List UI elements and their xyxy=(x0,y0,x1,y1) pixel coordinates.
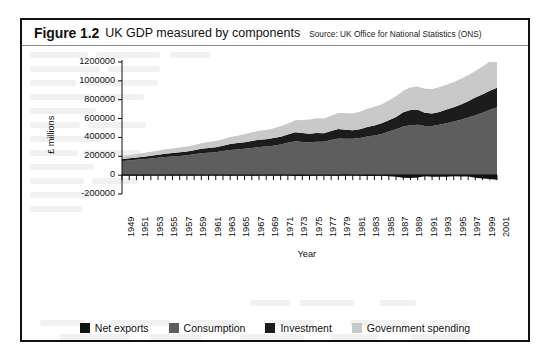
x-axis-tick-label: 1993 xyxy=(443,217,453,237)
x-axis-tick-label: 1953 xyxy=(155,217,165,237)
x-axis-tick-label: 1955 xyxy=(169,217,179,237)
y-axis-tick-label: -200000 xyxy=(45,188,115,198)
figure-number: Figure 1.2 xyxy=(34,25,99,41)
y-axis-tick-label: 800000 xyxy=(45,94,115,104)
x-axis-tick-label: 1961 xyxy=(213,217,223,237)
legend-label: Net exports xyxy=(95,322,149,334)
x-axis-tick-label: 1999 xyxy=(487,217,497,237)
x-axis-tick-label: 1981 xyxy=(357,217,367,237)
legend-swatch-icon xyxy=(265,323,275,333)
chart-plot-region: -200000020000040000060000080000010000001… xyxy=(22,46,528,340)
x-axis-tick-label: 1957 xyxy=(184,217,194,237)
legend-swatch-icon xyxy=(169,323,179,333)
legend-item[interactable]: Investment xyxy=(265,322,331,334)
x-axis-tick-label: 2001 xyxy=(501,217,511,237)
figure-header: Figure 1.2 UK GDP measured by components… xyxy=(22,20,528,46)
x-axis-tick-label: 1951 xyxy=(140,217,150,237)
y-axis-tick-label: 0 xyxy=(45,169,115,179)
x-axis-tick-label: 1991 xyxy=(429,217,439,237)
y-axis-title: £ millions xyxy=(46,116,56,154)
x-axis-tick-label: 1979 xyxy=(342,217,352,237)
x-axis-tick-label: 1977 xyxy=(328,217,338,237)
legend-swatch-icon xyxy=(352,323,362,333)
x-axis-tick-label: 1989 xyxy=(414,217,424,237)
figure-source: Source: UK Office for National Statistic… xyxy=(309,27,481,39)
x-axis-tick-label: 1997 xyxy=(472,217,482,237)
x-axis-tick-label: 1965 xyxy=(241,217,251,237)
legend-item[interactable]: Net exports xyxy=(80,322,149,334)
x-axis-tick-label: 1975 xyxy=(314,217,324,237)
figure-title: UK GDP measured by components xyxy=(105,26,300,40)
x-axis-tick-label: 1995 xyxy=(458,217,468,237)
x-axis-title: Year xyxy=(298,249,317,259)
x-axis-tick-label: 1971 xyxy=(285,217,295,237)
x-axis-tick-label: 1987 xyxy=(400,217,410,237)
legend-label: Government spending xyxy=(367,322,470,334)
y-axis-tick-label: 1200000 xyxy=(45,56,115,66)
legend-item[interactable]: Consumption xyxy=(169,322,246,334)
figure-box: Figure 1.2 UK GDP measured by components… xyxy=(20,18,530,342)
x-axis-tick-label: 1949 xyxy=(126,217,136,237)
legend-swatch-icon xyxy=(80,323,90,333)
legend-label: Investment xyxy=(280,322,331,334)
legend-label: Consumption xyxy=(184,322,246,334)
x-axis-tick-label: 1967 xyxy=(256,217,266,237)
legend-item[interactable]: Government spending xyxy=(352,322,470,334)
x-axis-tick-label: 1959 xyxy=(198,217,208,237)
x-axis-tick-label: 1963 xyxy=(227,217,237,237)
x-axis-tick-label: 1983 xyxy=(371,217,381,237)
y-axis-tick-label: 1000000 xyxy=(45,75,115,85)
chart-legend: Net exportsConsumptionInvestmentGovernme… xyxy=(22,322,528,334)
x-axis-tick-label: 1973 xyxy=(299,217,309,237)
x-axis-tick-label: 1969 xyxy=(270,217,280,237)
x-axis-tick-label: 1985 xyxy=(386,217,396,237)
